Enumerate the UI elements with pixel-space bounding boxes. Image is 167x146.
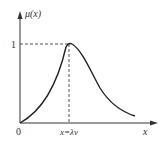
membership-curve bbox=[20, 43, 135, 123]
membership-function-chart: μ(x) 1 0 x=λv x bbox=[0, 0, 167, 146]
y-axis-arrow-icon bbox=[18, 11, 23, 19]
y-tick-one: 1 bbox=[11, 39, 16, 50]
peak-x-label: x=λv bbox=[59, 127, 78, 137]
y-axis-label: μ(x) bbox=[24, 8, 42, 20]
origin-label: 0 bbox=[16, 126, 21, 137]
x-axis-arrow-icon bbox=[150, 121, 158, 126]
x-axis-label: x bbox=[142, 126, 148, 137]
